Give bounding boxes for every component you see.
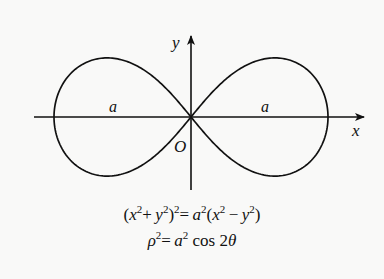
y-axis-label: y xyxy=(172,34,180,51)
x-axis-label: x xyxy=(352,122,360,139)
segment-label-right: a xyxy=(261,99,269,115)
polar-equation: ρ2= a2 cos 2θ xyxy=(0,232,384,249)
origin-label: O xyxy=(174,138,186,155)
cartesian-equation: (x2+ y2)2= a2(x2 − y2) xyxy=(0,206,384,223)
segment-label-left: a xyxy=(109,99,117,115)
